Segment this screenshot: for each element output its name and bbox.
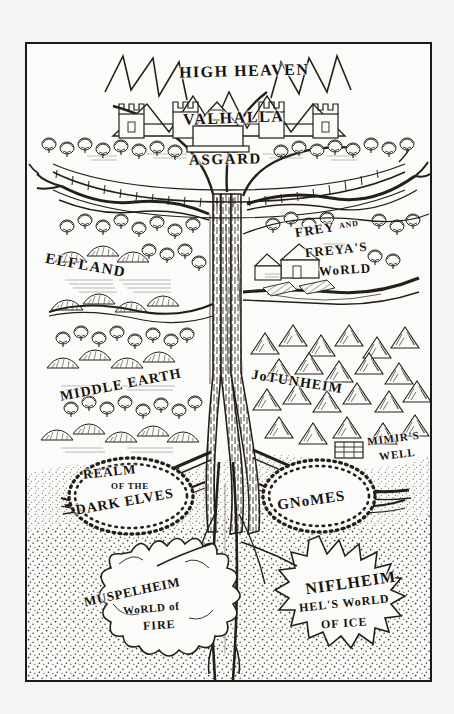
cavern-icon-dark-elves bbox=[69, 458, 193, 534]
map-plate: HIGH HEAVEN VALHALLA ASGARD ELFLAND FREY… bbox=[25, 42, 432, 682]
cavern-icon-gnomes bbox=[263, 460, 375, 532]
stone-well-icon bbox=[335, 442, 363, 458]
yggdrasil-world-tree-drawing bbox=[27, 44, 430, 680]
illustration-page: HIGH HEAVEN VALHALLA ASGARD ELFLAND FREY… bbox=[0, 0, 454, 714]
